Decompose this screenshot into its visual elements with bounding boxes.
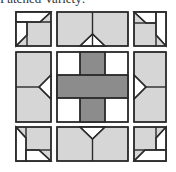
quilt-diagram [0,0,176,172]
block-middle-right [134,52,166,122]
block-bottom-left [16,127,51,161]
block-bottom-center [57,127,128,161]
block-top-left [16,12,51,46]
block-top-center [57,12,128,46]
block-center [57,52,128,122]
block-middle-left [16,52,51,122]
block-top-right [134,12,166,46]
block-bottom-right [134,127,166,161]
